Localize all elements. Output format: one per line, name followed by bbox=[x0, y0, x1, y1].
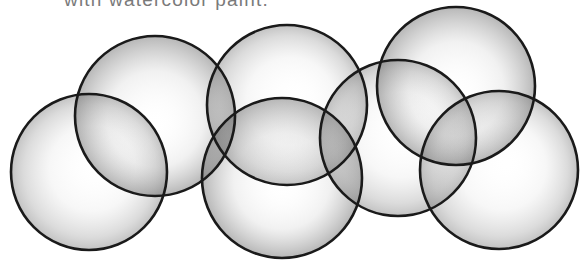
circle-washes bbox=[11, 7, 578, 258]
illustration-canvas: with watercolor paint. bbox=[0, 0, 582, 269]
overlapping-circles-illustration bbox=[0, 0, 582, 269]
